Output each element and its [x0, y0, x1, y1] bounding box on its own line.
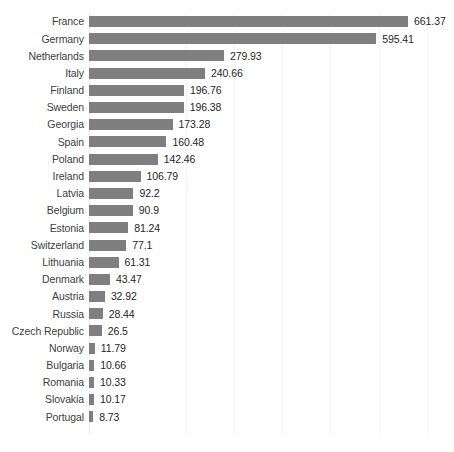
bar[interactable] — [89, 377, 94, 388]
value-label: 11.79 — [101, 343, 126, 354]
bar-and-value: 196.76 — [89, 85, 221, 96]
category-label: Belgium — [0, 205, 84, 216]
bar-row[interactable]: Netherlands279.93 — [0, 47, 454, 64]
bar-row[interactable]: Portugal8.73 — [0, 408, 454, 425]
bar-and-value: 61.31 — [89, 257, 150, 268]
bar[interactable] — [89, 50, 224, 61]
category-label: Slovakia — [0, 394, 84, 405]
bar-and-value: 160.48 — [89, 136, 204, 147]
bar[interactable] — [89, 274, 110, 285]
bar-row[interactable]: Estonia81.24 — [0, 219, 454, 236]
bar-and-value: 661.37 — [89, 16, 446, 27]
bar[interactable] — [89, 119, 173, 130]
bar-and-value: 92.2 — [89, 188, 160, 199]
bar-row[interactable]: Lithuania61.31 — [0, 254, 454, 271]
bar[interactable] — [89, 343, 95, 354]
bar-and-value: 196.38 — [89, 102, 221, 113]
category-label: Czech Republic — [0, 326, 84, 337]
category-label: Georgia — [0, 119, 84, 130]
bar-row[interactable]: Norway11.79 — [0, 340, 454, 357]
category-label: Portugal — [0, 412, 84, 423]
value-label: 61.31 — [125, 257, 151, 268]
bar-row[interactable]: Austria32.92 — [0, 288, 454, 305]
value-label: 92.2 — [139, 188, 159, 199]
category-label: Italy — [0, 68, 84, 79]
bar[interactable] — [89, 85, 184, 96]
category-label: France — [0, 16, 84, 27]
bar[interactable] — [89, 291, 105, 302]
bar-and-value: 90.9 — [89, 205, 159, 216]
value-label: 10.33 — [100, 377, 126, 388]
value-label: 10.66 — [100, 360, 126, 371]
bar[interactable] — [89, 205, 133, 216]
value-label: 8.73 — [99, 412, 119, 423]
value-label: 90.9 — [139, 205, 159, 216]
value-label: 28.44 — [109, 309, 135, 320]
bar[interactable] — [89, 68, 205, 79]
bar[interactable] — [89, 257, 119, 268]
bar-row[interactable]: Romania10.33 — [0, 374, 454, 391]
bar-row[interactable]: Denmark43.47 — [0, 271, 454, 288]
bar[interactable] — [89, 394, 94, 405]
bar-row[interactable]: Ireland106.79 — [0, 168, 454, 185]
bar-row[interactable]: Germany595.41 — [0, 30, 454, 47]
bar-row[interactable]: Slovakia10.17 — [0, 391, 454, 408]
value-label: 10.17 — [100, 394, 126, 405]
bar[interactable] — [89, 240, 126, 251]
bar[interactable] — [89, 136, 166, 147]
category-label: Netherlands — [0, 51, 84, 62]
bar[interactable] — [89, 360, 94, 371]
bar-and-value: 173.28 — [89, 119, 210, 130]
bar-row[interactable]: Finland196.76 — [0, 82, 454, 99]
bar-and-value: 279.93 — [89, 50, 262, 61]
value-label: 32.92 — [111, 291, 137, 302]
bar-row[interactable]: Czech Republic26.5 — [0, 322, 454, 339]
category-label: Switzerland — [0, 240, 84, 251]
bar-and-value: 10.66 — [89, 360, 126, 371]
bar[interactable] — [89, 325, 102, 336]
value-label: 43.47 — [116, 274, 142, 285]
bar-and-value: 142.46 — [89, 154, 195, 165]
bar[interactable] — [89, 308, 103, 319]
bar[interactable] — [89, 171, 141, 182]
bar[interactable] — [89, 188, 133, 199]
bar[interactable] — [89, 154, 158, 165]
bar[interactable] — [89, 102, 184, 113]
ghost-text-top — [0, 2, 454, 12]
bar-and-value: 43.47 — [89, 274, 142, 285]
bar-row[interactable]: Latvia92.2 — [0, 185, 454, 202]
value-label: 240.66 — [211, 68, 243, 79]
category-label: Poland — [0, 154, 84, 165]
bar[interactable] — [89, 33, 376, 44]
bar[interactable] — [89, 16, 408, 27]
value-label: 142.46 — [164, 154, 196, 165]
bar[interactable] — [89, 411, 93, 422]
category-label: Bulgaria — [0, 360, 84, 371]
bar-and-value: 8.73 — [89, 411, 119, 422]
bar-row[interactable]: Belgium90.9 — [0, 202, 454, 219]
bar-row[interactable]: Italy240.66 — [0, 65, 454, 82]
bar-row[interactable]: France661.37 — [0, 13, 454, 30]
category-label: Russia — [0, 309, 84, 320]
bar-row[interactable]: Russia28.44 — [0, 305, 454, 322]
value-label: 196.76 — [190, 85, 222, 96]
bar-row[interactable]: Sweden196.38 — [0, 99, 454, 116]
bar-row[interactable]: Georgia173.28 — [0, 116, 454, 133]
bar-row[interactable]: Spain160.48 — [0, 133, 454, 150]
value-label: 26.5 — [108, 326, 128, 337]
bar-row[interactable]: Poland142.46 — [0, 151, 454, 168]
bar-and-value: 77.1 — [89, 240, 152, 251]
bar[interactable] — [89, 222, 128, 233]
bar-and-value: 11.79 — [89, 343, 126, 354]
value-label: 279.93 — [230, 51, 262, 62]
bar-row[interactable]: Switzerland77.1 — [0, 236, 454, 253]
value-label: 160.48 — [172, 137, 204, 148]
category-label: Ireland — [0, 171, 84, 182]
category-label: Finland — [0, 85, 84, 96]
category-label: Germany — [0, 34, 84, 45]
category-label: Estonia — [0, 223, 84, 234]
value-label: 595.41 — [382, 34, 414, 45]
value-label: 661.37 — [414, 16, 446, 27]
category-label: Romania — [0, 377, 84, 388]
bar-row[interactable]: Bulgaria10.66 — [0, 357, 454, 374]
